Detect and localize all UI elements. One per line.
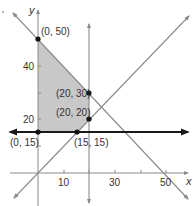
tick-x-30: 30	[109, 177, 121, 188]
linear-programming-graph: y x 10 30 50 20 40 (0, 50) (20, 30) (20,…	[0, 0, 193, 206]
label-0-50: (0, 50)	[41, 26, 70, 37]
label-20-20: (20, 20)	[56, 107, 90, 118]
tick-x-50: 50	[160, 177, 172, 188]
point-0-50	[35, 36, 40, 41]
label-20-30: (20, 30)	[56, 88, 90, 99]
label-15-15: (15, 15)	[74, 137, 108, 148]
stray-dot	[2, 11, 4, 13]
point-15-15	[74, 129, 79, 134]
label-0-15: (0, 15)	[10, 137, 39, 148]
tick-y-20: 20	[23, 114, 35, 125]
y-axis-label: y	[28, 4, 36, 16]
tick-y-40: 40	[23, 61, 35, 72]
point-0-15	[35, 129, 40, 134]
tick-x-10: 10	[58, 177, 70, 188]
x-axis-label: x	[185, 175, 192, 187]
